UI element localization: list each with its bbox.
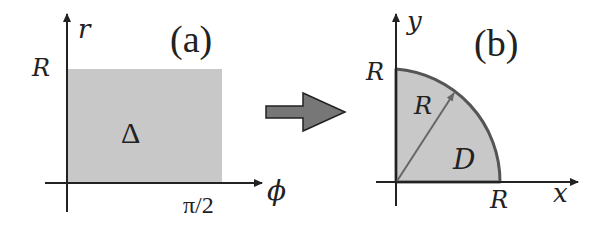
panel-b-title: (b) (474, 22, 518, 65)
r-tick-R: R (31, 54, 50, 82)
region-D-label: D (452, 143, 475, 176)
x-tick-R: R (489, 186, 508, 214)
x-axis-label: x (553, 178, 568, 208)
quarter-disk-D (396, 69, 500, 182)
r-axis-label: r (78, 14, 92, 44)
radius-label: R (413, 92, 432, 120)
delta-region (68, 69, 222, 183)
panel-b: y (b) R R D R x (365, 6, 578, 214)
panel-a: r (a) R Δ π/2 ϕ (31, 14, 286, 218)
y-tick-R: R (365, 58, 384, 86)
panel-a-title: (a) (170, 18, 212, 61)
transform-arrow-icon (266, 93, 345, 131)
phi-axis-label: ϕ (267, 174, 286, 207)
diagram-canvas: r (a) R Δ π/2 ϕ y (b) R R D R x (0, 0, 602, 229)
y-axis-label: y (406, 6, 422, 36)
phi-tick-pi-over-2: π/2 (183, 192, 214, 218)
delta-label: Δ (121, 116, 140, 149)
